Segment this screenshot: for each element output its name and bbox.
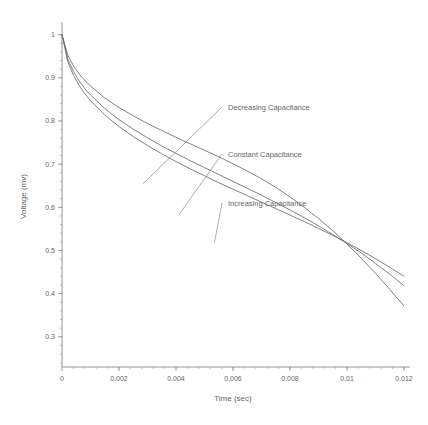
y-tick-label: 0.5 <box>45 247 55 254</box>
leader-line <box>179 154 222 215</box>
data-curves <box>62 35 404 307</box>
y-axis-title: Voltage (mv) <box>19 174 28 219</box>
leader-line <box>143 107 222 184</box>
x-tick-label: 0.01 <box>340 375 354 382</box>
x-tick-label: 0.012 <box>395 375 413 382</box>
y-tick-label: 0.6 <box>45 204 55 211</box>
x-axis-tick-labels: 00.0020.0040.0060.0080.010.012 <box>60 375 413 382</box>
y-axis-ticks <box>58 35 62 363</box>
curve-constant-capacitance <box>62 35 404 286</box>
y-tick-label: 0.9 <box>45 74 55 81</box>
y-axis-tick-labels: 0.30.40.50.60.70.80.91 <box>45 31 55 340</box>
x-tick-label: 0 <box>60 375 64 382</box>
annotation-label: Increasing Capacitance <box>228 199 306 208</box>
y-tick-label: 0.8 <box>45 117 55 124</box>
curve-decreasing-capacitance <box>62 35 404 307</box>
x-axis-ticks <box>62 367 404 371</box>
y-tick-label: 1 <box>51 31 55 38</box>
x-tick-label: 0.004 <box>167 375 185 382</box>
x-tick-label: 0.002 <box>110 375 128 382</box>
x-axis-title: Time (sec) <box>214 394 252 403</box>
leader-line <box>214 203 222 243</box>
y-tick-label: 0.7 <box>45 161 55 168</box>
y-tick-label: 0.3 <box>45 333 55 340</box>
annotation-label: Decreasing Capacitance <box>228 103 310 112</box>
plot-canvas: 0.30.40.50.60.70.80.91 00.0020.0040.0060… <box>0 0 428 425</box>
x-tick-label: 0.008 <box>281 375 299 382</box>
x-tick-label: 0.006 <box>224 375 242 382</box>
annotation-label: Constant Capacitance <box>228 150 302 159</box>
y-tick-label: 0.4 <box>45 290 55 297</box>
chart-figure: 0.30.40.50.60.70.80.91 00.0020.0040.0060… <box>0 0 428 425</box>
